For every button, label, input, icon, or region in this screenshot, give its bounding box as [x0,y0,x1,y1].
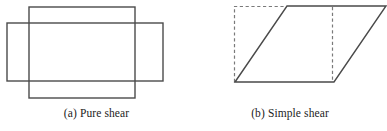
caption-text-simple-shear: Simple shear [268,107,329,119]
simple-shear-diagram [193,0,387,105]
shear-deformation-figure: (a)Pure shear (b)Simple shear [0,0,387,131]
panel-simple-shear: (b)Simple shear [193,0,387,131]
caption-pure-shear: (a)Pure shear [0,106,193,120]
caption-simple-shear: (b)Simple shear [193,106,387,120]
caption-label-b: (b) [251,107,265,119]
tall-rectangle [29,7,135,98]
caption-label-a: (a) [64,107,77,119]
pure-shear-diagram [0,0,193,105]
sheared-parallelogram [235,6,386,82]
wide-rectangle [7,23,163,81]
panel-pure-shear: (a)Pure shear [0,0,193,131]
caption-text-pure-shear: Pure shear [80,107,129,119]
